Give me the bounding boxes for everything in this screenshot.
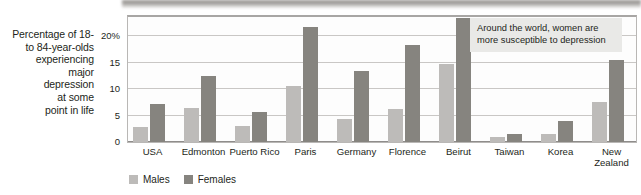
x-axis-tick-label: New Zealand bbox=[586, 146, 637, 168]
y-axis-tick-labels: 05101520% bbox=[86, 15, 124, 143]
bar-males bbox=[592, 102, 607, 142]
bar-group bbox=[331, 15, 382, 142]
bar-males bbox=[286, 86, 301, 142]
y-axis-tick-label: 0 bbox=[115, 137, 120, 147]
y-axis-caption: Percentage of 18- to 84-year-olds experi… bbox=[2, 28, 94, 116]
bar-group bbox=[280, 15, 331, 142]
x-axis-tick-label: Florence bbox=[382, 146, 433, 157]
bar-females bbox=[303, 27, 318, 142]
bar-females bbox=[609, 60, 624, 142]
bar-females bbox=[456, 18, 471, 142]
bar-females bbox=[252, 112, 267, 142]
y-axis-caption-line: at some bbox=[2, 91, 94, 104]
legend-item-females: Females bbox=[184, 174, 236, 185]
y-axis-tick-label: 10 bbox=[109, 84, 120, 94]
y-axis-tick-label: 5 bbox=[115, 111, 120, 121]
y-axis-caption-line: experiencing bbox=[2, 53, 94, 66]
y-axis-caption-line: major bbox=[2, 66, 94, 79]
bar-females bbox=[558, 121, 573, 142]
bar-group bbox=[382, 15, 433, 142]
annotation-callout: Around the world, women are more suscept… bbox=[470, 18, 622, 52]
x-axis-tick-label: Taiwan bbox=[484, 146, 535, 157]
legend-label: Females bbox=[198, 174, 236, 185]
bar-group bbox=[229, 15, 280, 142]
y-axis-caption-line: point in life bbox=[2, 104, 94, 117]
x-axis-tick-label: Korea bbox=[535, 146, 586, 157]
x-axis-tick-label: Paris bbox=[280, 146, 331, 157]
legend-label: Males bbox=[143, 174, 170, 185]
depression-bar-chart-figure: Percentage of 18- to 84-year-olds experi… bbox=[0, 0, 641, 195]
bar-males bbox=[337, 119, 352, 142]
bar-group bbox=[127, 15, 178, 142]
legend-swatch-icon bbox=[184, 175, 193, 184]
y-axis-caption-line: depression bbox=[2, 78, 94, 91]
bar-males bbox=[439, 64, 454, 142]
bar-females bbox=[201, 76, 216, 142]
y-axis-caption-line: Percentage of 18- bbox=[2, 28, 94, 41]
x-axis-tick-label: USA bbox=[127, 146, 178, 157]
bar-males bbox=[184, 108, 199, 142]
bar-males bbox=[490, 137, 505, 142]
bar-females bbox=[354, 71, 369, 142]
bar-males bbox=[133, 127, 148, 142]
legend-swatch-icon bbox=[129, 175, 138, 184]
bar-group bbox=[178, 15, 229, 142]
x-axis-tick-label: Puerto Rico bbox=[229, 146, 280, 157]
bar-males bbox=[541, 134, 556, 142]
bar-females bbox=[405, 45, 420, 142]
x-axis-tick-label: Germany bbox=[331, 146, 382, 157]
y-axis-tick-label: 20% bbox=[101, 31, 120, 41]
x-axis-tick-labels: USAEdmontonPuerto RicoParisGermanyFloren… bbox=[127, 146, 637, 174]
bar-females bbox=[507, 134, 522, 142]
bar-males bbox=[235, 126, 250, 142]
top-edge-band bbox=[122, 0, 641, 8]
y-axis-caption-line: to 84-year-olds bbox=[2, 41, 94, 54]
legend-item-males: Males bbox=[129, 174, 170, 185]
x-axis-tick-label: Edmonton bbox=[178, 146, 229, 157]
y-axis-tick-label: 15 bbox=[109, 58, 120, 68]
bar-males bbox=[388, 109, 403, 142]
chart-legend: MalesFemales bbox=[129, 174, 236, 185]
bar-females bbox=[150, 104, 165, 142]
x-axis-tick-label: Beirut bbox=[433, 146, 484, 157]
